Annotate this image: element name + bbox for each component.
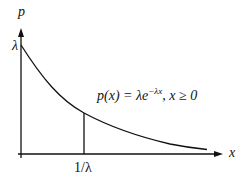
y-tick-lambda: λ — [12, 39, 18, 53]
formula-exponent: −λx — [148, 86, 162, 96]
x-tick-mean: 1/λ — [74, 161, 92, 175]
formula-lhs: p(x) = λe — [97, 88, 148, 103]
y-axis-arrowhead — [18, 28, 24, 37]
formula-condition: , x ≥ 0 — [162, 88, 197, 103]
density-formula: p(x) = λe−λx, x ≥ 0 — [97, 87, 197, 103]
x-axis-arrowhead — [214, 151, 223, 157]
y-axis-label: p — [18, 5, 25, 19]
x-axis-label: x — [229, 146, 235, 160]
